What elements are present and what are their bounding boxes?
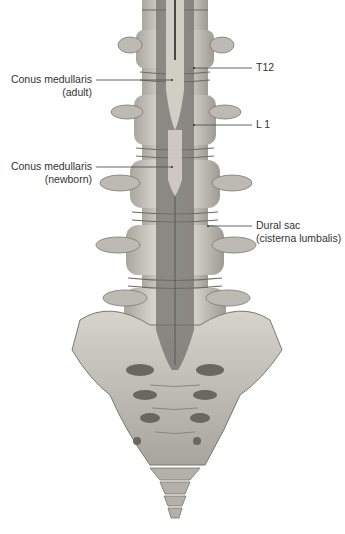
label-t12-text: T12	[256, 61, 274, 73]
label-dural-sac-line2: (cisterna lumbalis)	[256, 232, 341, 245]
label-conus-adult-line1: Conus medullaris	[0, 73, 92, 86]
label-t12: T12	[256, 61, 274, 74]
label-l1: L 1	[256, 118, 270, 131]
label-conus-newborn-line2: (newborn)	[0, 173, 92, 186]
label-conus-medullaris-adult: Conus medullaris (adult)	[0, 73, 92, 99]
label-l1-text: L 1	[256, 118, 270, 130]
label-dural-sac: Dural sac (cisterna lumbalis)	[256, 219, 341, 245]
coccyx	[150, 468, 200, 518]
label-conus-medullaris-newborn: Conus medullaris (newborn)	[0, 160, 92, 186]
label-conus-adult-line2: (adult)	[0, 86, 92, 99]
label-dural-sac-line1: Dural sac	[256, 219, 341, 232]
label-conus-newborn-line1: Conus medullaris	[0, 160, 92, 173]
